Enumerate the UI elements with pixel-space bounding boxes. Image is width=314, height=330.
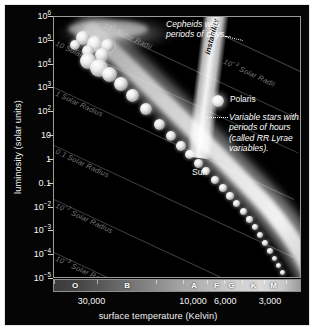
y-tick-label: 1 [11, 154, 51, 163]
star-marker [240, 208, 247, 215]
x-tick-label: 10,000 [179, 296, 207, 306]
star-marker [262, 240, 268, 246]
star-marker [246, 216, 253, 223]
y-tick-label: 0.1 [11, 178, 51, 187]
star-marker [140, 103, 152, 115]
spectral-class-k: K [251, 281, 257, 290]
star-marker [166, 131, 176, 141]
spectral-class-bar: OBAFGKM [53, 279, 301, 292]
spectral-tick [156, 280, 157, 284]
spectral-tick [286, 280, 287, 284]
spectral-class-f: F [214, 281, 219, 290]
y-tick-label: 104 [11, 59, 51, 68]
iso-radius-label: 0.1 Solar Radius [54, 147, 110, 180]
spectral-tick [207, 280, 208, 284]
hr-diagram-figure: luminosity (solar units) 106105104103102… [0, 0, 314, 330]
star-marker [219, 184, 227, 192]
iso-radius-label: 1 Solar Radius [54, 89, 104, 119]
iso-radius-line [54, 199, 295, 278]
polaris-label: Polaris [230, 94, 256, 104]
spectral-class-b: B [124, 281, 130, 290]
spectral-tick [242, 280, 243, 284]
plot-area: 103 Solar Radii10 Solar Radii1 Solar Rad… [53, 16, 301, 278]
y-tick-label: 102 [11, 107, 51, 116]
star-marker [272, 256, 277, 261]
iso-radius-label: 10 Solar Radii [54, 39, 102, 68]
star-marker [114, 77, 128, 91]
spectral-tick [183, 280, 184, 284]
polaris-star-marker [212, 95, 224, 107]
star-marker [154, 119, 165, 130]
y-tick-label: 10−4 [11, 250, 51, 259]
star-marker [101, 39, 114, 52]
y-tick-label: 10−5 [11, 274, 51, 283]
star-marker [226, 192, 234, 200]
x-tick-label: 6,000 [214, 296, 237, 306]
star-marker [211, 176, 219, 184]
iso-radius-label: 103 Solar Radii [102, 21, 153, 51]
diagram-plate: luminosity (solar units) 106105104103102… [4, 4, 310, 326]
y-tick-label: 106 [11, 12, 51, 21]
x-tick-label: 3,000 [259, 296, 282, 306]
star-marker [176, 141, 186, 151]
variable-stars-annotation: Variable stars with periods of hours (ca… [229, 112, 299, 154]
star-marker [126, 89, 139, 102]
spectral-tick [97, 280, 98, 284]
y-tick-label: 10−2 [11, 202, 51, 211]
spectral-class-m: M [270, 281, 277, 290]
star-marker [252, 224, 258, 230]
x-tick-label: 30,000 [78, 296, 106, 306]
y-tick-label: 10−3 [11, 226, 51, 235]
spectral-class-g: G [228, 281, 234, 290]
star-marker [76, 31, 90, 45]
spectral-class-o: O [72, 281, 78, 290]
variable-stars-leader-line [207, 117, 228, 118]
x-axis-title: surface temperature (Kelvin) [5, 311, 310, 321]
iso-radius-label: 10−3 Solar Radii [222, 57, 276, 89]
spectral-tick [224, 280, 225, 284]
star-marker [87, 36, 103, 52]
spectral-tick [54, 280, 55, 284]
star-marker [276, 263, 281, 268]
y-axis-ticks: 1061051041031021010.110−210−310−410−5 [7, 5, 51, 325]
y-tick-label: 10 [11, 131, 51, 140]
iso-radius-label: 10−2 Solar Radius [54, 201, 114, 235]
star-marker [102, 67, 117, 82]
star-marker [280, 270, 285, 275]
star-marker [257, 232, 263, 238]
y-tick-label: 103 [11, 83, 51, 92]
star-marker [233, 200, 240, 207]
cepheids-annotation: Cepheids with periods of days... [166, 19, 231, 40]
spectral-tick [264, 280, 265, 284]
iso-radius-label: 10−3 Solar Radius [54, 254, 114, 278]
y-tick-label: 105 [11, 35, 51, 44]
star-marker [267, 248, 273, 254]
spectral-class-a: A [191, 281, 197, 290]
sun-label: Sun [192, 167, 207, 177]
